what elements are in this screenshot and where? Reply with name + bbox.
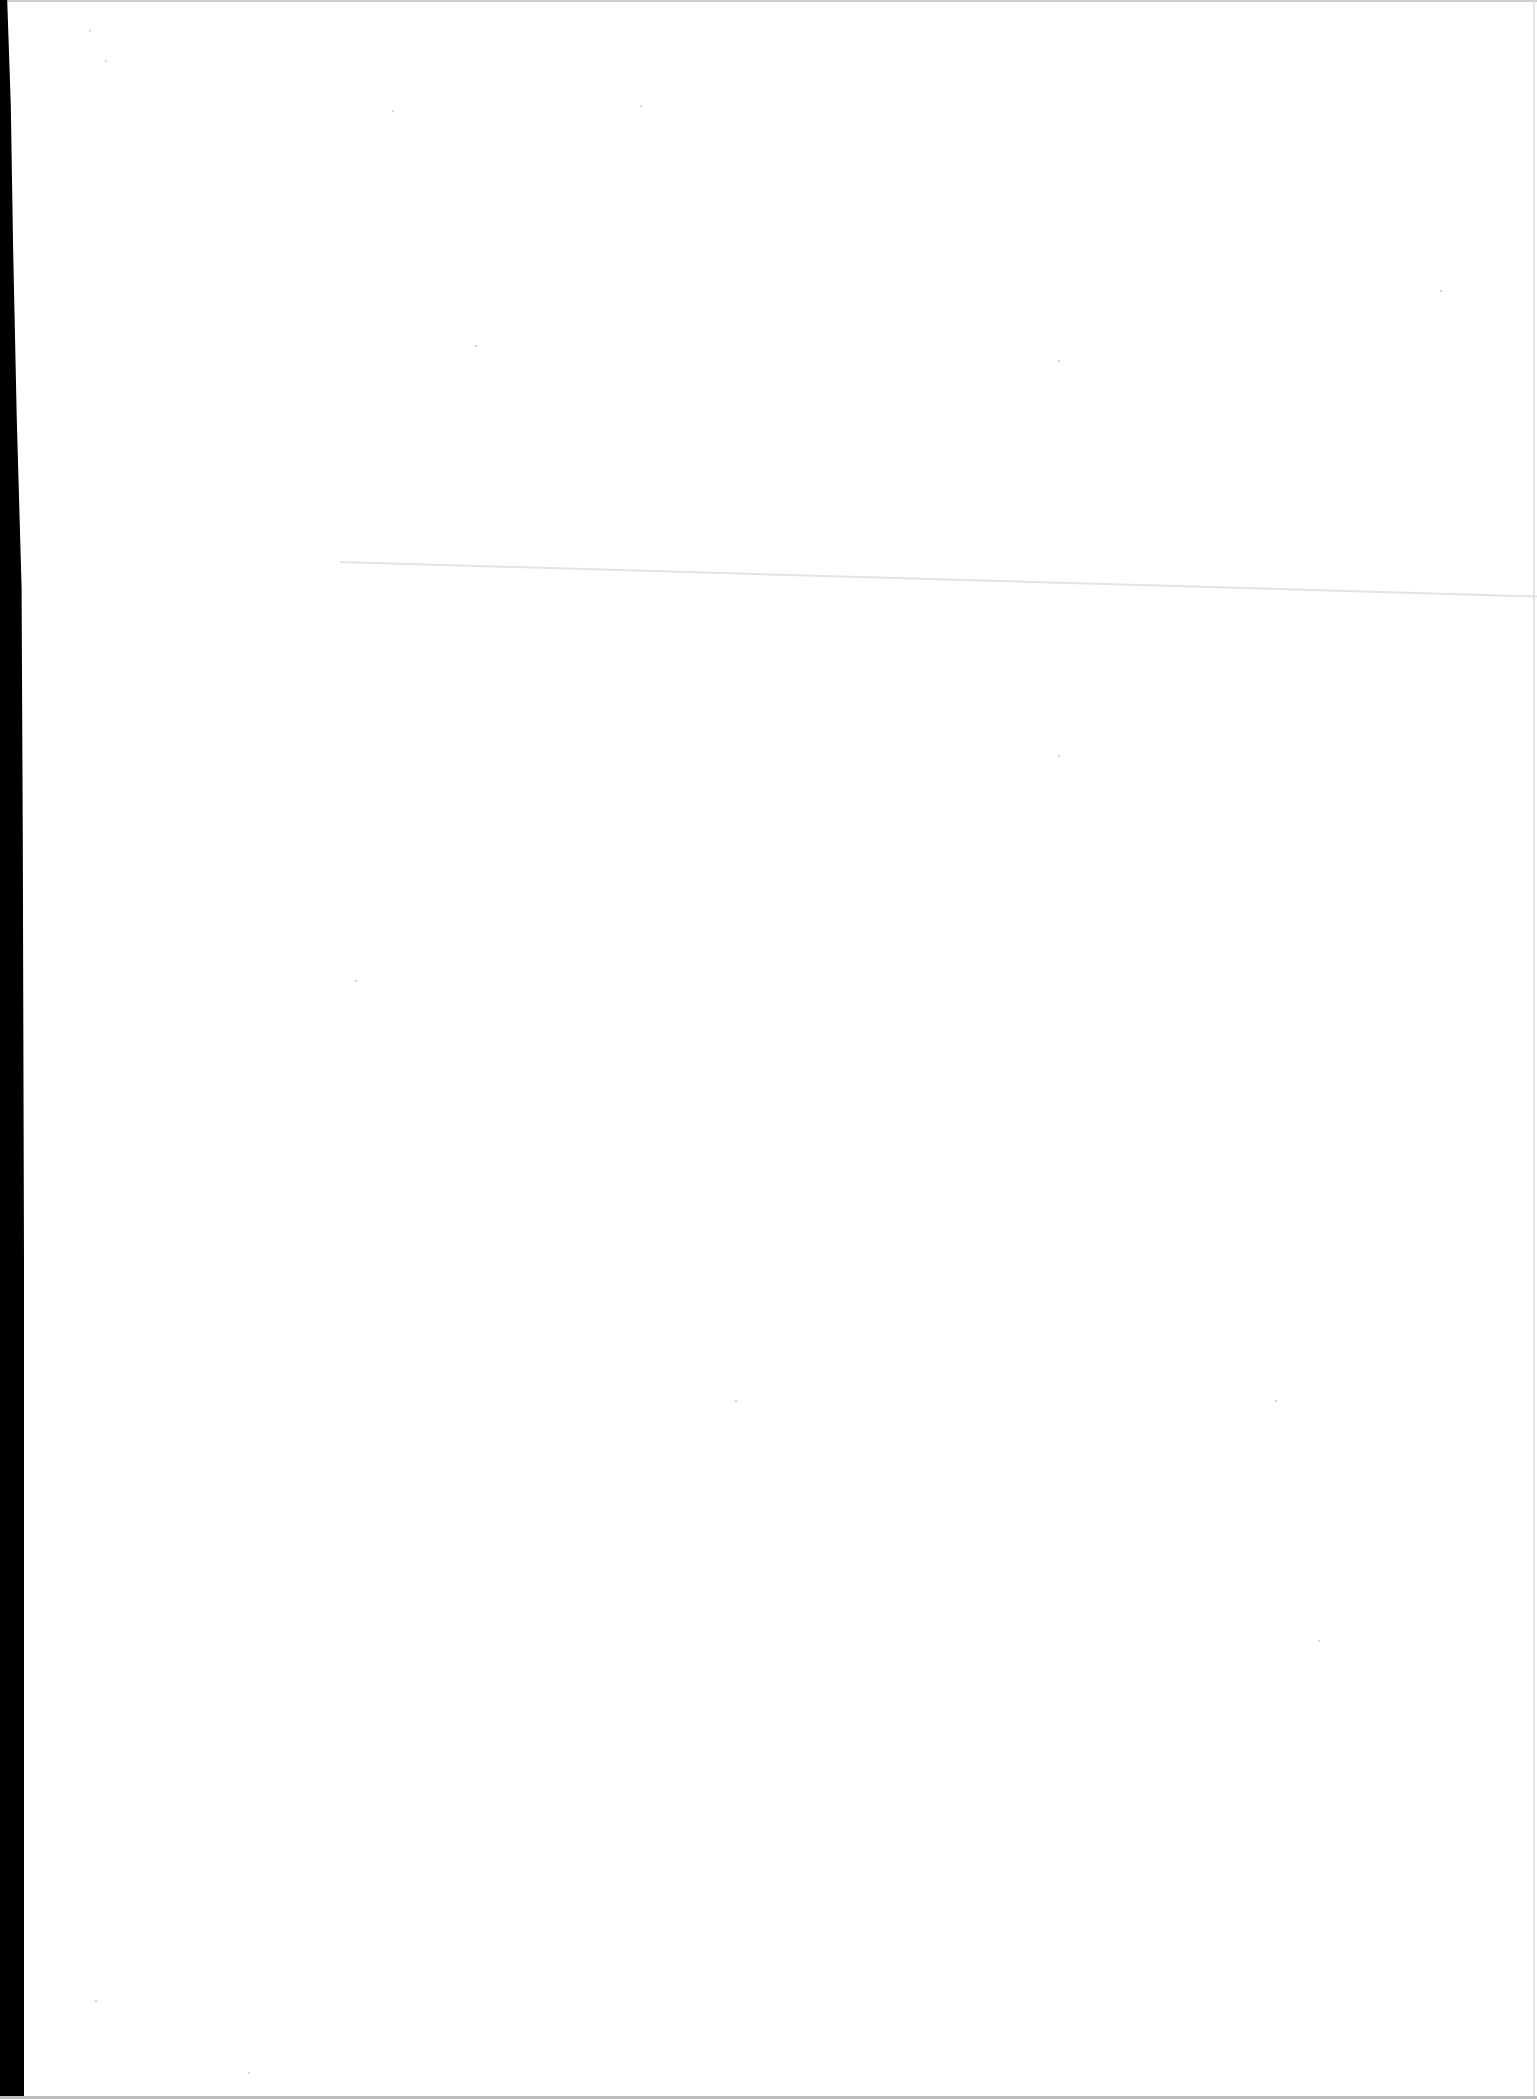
paper-torn-edge [4,40,22,340]
page-top-edge [0,0,1537,2]
scan-speck [1058,360,1060,362]
scan-speck [95,2000,97,2002]
scan-speck [1318,1640,1320,1642]
scan-speck [735,1400,737,1402]
scan-speck [248,2072,250,2074]
scan-speck [1275,1400,1277,1402]
scan-speck [89,30,91,32]
scan-speck [640,105,642,107]
scan-speck [392,110,394,112]
scan-speck [105,60,107,62]
scan-speck [475,345,477,347]
scan-speck [1440,290,1442,292]
page-right-edge [1533,0,1535,2099]
blank-scanned-page [0,0,1537,2099]
scan-speck [355,980,357,982]
scan-speck [1058,755,1060,757]
paper-fold-line [340,561,1537,598]
